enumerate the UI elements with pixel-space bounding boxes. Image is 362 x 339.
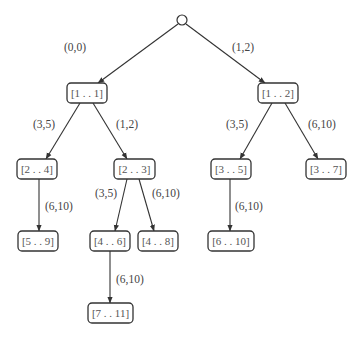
- edge-label: (6,10): [235, 200, 263, 213]
- edge-root-n11: (0,0): [64, 24, 178, 83]
- edge-n24-n59: (6,10): [39, 179, 73, 231]
- edge-label: (0,0): [64, 41, 86, 54]
- edges: (0,0)(1,2)(3,5)(1,2)(3,5)(6,10)(6,10)(3,…: [33, 24, 336, 303]
- node-label: [2 . . 4]: [21, 163, 53, 175]
- edge-n12-n35: (3,5): [226, 103, 272, 159]
- edge-n11-n23: (1,2): [93, 103, 138, 159]
- node-label: [7 . . 11]: [92, 307, 129, 319]
- edge-arrow: [46, 103, 80, 159]
- node-n711: [7 . . 11]: [88, 303, 133, 323]
- edge-label: (1,2): [116, 118, 138, 131]
- edge-label: (3,5): [226, 118, 248, 131]
- node-label: [4 . . 6]: [94, 235, 126, 247]
- node-n46: [4 . . 6]: [90, 231, 130, 251]
- edge-n12-n37: (6,10): [285, 103, 336, 159]
- node-label: [1 . . 2]: [262, 87, 294, 99]
- edge-n35-n610: (6,10): [230, 179, 263, 231]
- node-label: [1 . . 1]: [71, 87, 103, 99]
- edge-label: (6,10): [152, 187, 180, 200]
- node-n12: [1 . . 2]: [258, 83, 298, 103]
- edge-label: (3,5): [33, 118, 55, 131]
- node-n48: [4 . . 8]: [138, 231, 178, 251]
- edge-arrow: [285, 103, 318, 159]
- edge-arrow: [186, 24, 265, 83]
- node-n610: [6 . . 10]: [208, 231, 254, 251]
- edge-label: (1,2): [232, 41, 254, 54]
- edge-label: (6,10): [116, 273, 144, 286]
- edge-n46-n711: (6,10): [110, 251, 144, 303]
- edge-arrow: [98, 24, 178, 83]
- node-label: [3 . . 7]: [310, 163, 342, 175]
- edge-root-n12: (1,2): [186, 24, 265, 83]
- edge-n23-n48: (6,10): [139, 179, 180, 231]
- node-n37: [3 . . 7]: [306, 159, 346, 179]
- node-n24: [2 . . 4]: [17, 159, 57, 179]
- node-n35: [3 . . 5]: [211, 159, 251, 179]
- node-label: [2 . . 3]: [118, 163, 150, 175]
- node-label: [5 . . 9]: [22, 235, 54, 247]
- tree-diagram: (0,0)(1,2)(3,5)(1,2)(3,5)(6,10)(6,10)(3,…: [0, 0, 362, 339]
- node-n59: [5 . . 9]: [18, 231, 58, 251]
- node-label: [4 . . 8]: [142, 235, 174, 247]
- edge-n23-n46: (3,5): [95, 179, 127, 231]
- edge-label: (6,10): [45, 200, 73, 213]
- edge-label: (3,5): [95, 187, 117, 200]
- root-node: [177, 15, 187, 25]
- node-n23: [2 . . 3]: [114, 159, 155, 179]
- edge-arrow: [93, 103, 127, 159]
- node-n11: [1 . . 1]: [67, 83, 107, 103]
- node-label: [3 . . 5]: [215, 163, 247, 175]
- edge-label: (6,10): [308, 118, 336, 131]
- edge-n11-n24: (3,5): [33, 103, 80, 159]
- node-label: [6 . . 10]: [212, 235, 250, 247]
- edge-arrow: [240, 103, 272, 159]
